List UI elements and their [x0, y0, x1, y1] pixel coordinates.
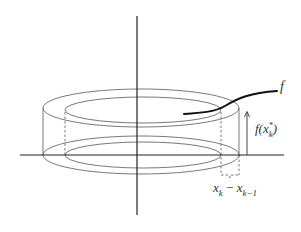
outer-top-ellipse — [43, 89, 239, 127]
inner-top-ellipse — [65, 97, 221, 123]
height-label-main: f(x — [255, 121, 269, 136]
function-label: f — [280, 79, 286, 94]
shell-diagram: f f(x*k) xk − xk−1 — [0, 0, 301, 232]
height-label-close: ) — [272, 121, 277, 136]
function-curve — [184, 91, 277, 114]
width-label-minus: − — [223, 180, 237, 195]
width-bracket — [221, 175, 239, 178]
width-label-b-sub: k−1 — [242, 188, 257, 198]
width-label: xk − xk−1 — [212, 180, 257, 198]
height-label: f(x*k) — [255, 121, 277, 139]
